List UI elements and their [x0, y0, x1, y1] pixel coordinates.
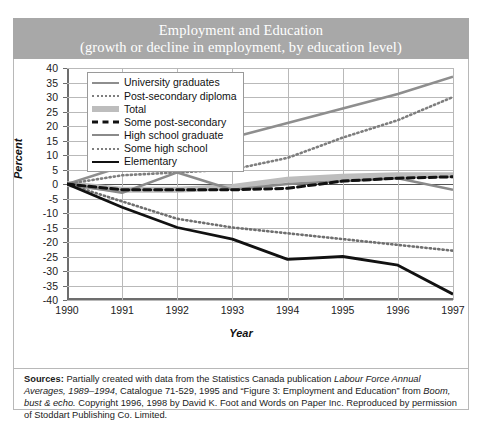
x-tick-label-1994: 1994: [268, 305, 308, 316]
chart-title-line2: (growth or decline in employment, by edu…: [80, 39, 402, 55]
x-tick-label-1992: 1992: [157, 305, 197, 316]
series-line-elementary: [67, 184, 453, 294]
chart-area: 4035302520151050-5-10-15-20-25-30-35-40 …: [13, 59, 469, 369]
y-tick-label--15: -15: [32, 223, 58, 234]
legend-item-total[interactable]: Total: [92, 102, 237, 115]
y-tick-label-30: 30: [32, 92, 58, 103]
x-tick-label-1996: 1996: [378, 305, 418, 316]
y-tick-label--10: -10: [32, 208, 58, 219]
legend-item-label: University graduates: [124, 77, 220, 88]
legend-item-post-secondary-diploma[interactable]: Post-secondary diploma: [92, 89, 237, 102]
legend-swatch-icon: [92, 77, 119, 88]
legend-item-university-graduates[interactable]: University graduates: [92, 76, 237, 89]
legend-swatch-icon: [92, 143, 119, 154]
legend-item-some-post-secondary[interactable]: Some post-secondary: [92, 116, 237, 129]
y-tick-label--5: -5: [32, 194, 58, 205]
legend-swatch-icon: [92, 103, 119, 114]
y-tick-label-5: 5: [32, 165, 58, 176]
chart-title-banner: Employment and Education (growth or decl…: [13, 18, 469, 59]
legend-swatch-icon: [92, 130, 119, 141]
figure-container: Employment and Education (growth or decl…: [13, 18, 469, 410]
legend-item-label: Post-secondary diploma: [124, 91, 237, 102]
x-tick-label-1993: 1993: [212, 305, 252, 316]
y-tick-label-15: 15: [32, 136, 58, 147]
series-line-some-high-school: [67, 184, 453, 251]
y-tick-label-40: 40: [32, 63, 58, 74]
y-tick-label--20: -20: [32, 237, 58, 248]
y-tick-label--40: -40: [32, 295, 58, 306]
y-tick-label-25: 25: [32, 107, 58, 118]
legend-item-some-high-school[interactable]: Some high school: [92, 142, 237, 155]
legend-item-label: Some post-secondary: [124, 117, 226, 128]
x-tick-label-1997: 1997: [433, 305, 469, 316]
y-tick--40: [63, 300, 67, 301]
legend-item-label: Elementary: [124, 156, 177, 167]
legend-item-label: Some high school: [124, 143, 207, 154]
source-label: Sources:: [24, 374, 64, 384]
y-tick-label-20: 20: [32, 121, 58, 132]
y-tick-label--35: -35: [32, 281, 58, 292]
gridline-y--40: [67, 300, 453, 301]
legend-item-elementary[interactable]: Elementary: [92, 155, 237, 168]
x-tick-label-1991: 1991: [102, 305, 142, 316]
x-tick-label-1995: 1995: [323, 305, 363, 316]
y-tick-label--30: -30: [32, 266, 58, 277]
y-tick-label-35: 35: [32, 78, 58, 89]
legend-swatch-icon: [92, 117, 119, 128]
x-tick-label-1990: 1990: [47, 305, 87, 316]
legend-item-label: High school graduate: [124, 130, 223, 141]
legend-swatch-icon: [92, 90, 119, 101]
chart-title-line1: Employment and Education: [159, 22, 323, 38]
y-tick-label-0: 0: [32, 179, 58, 190]
source-note-text: Sources: Partially created with data fro…: [24, 374, 458, 422]
y-axis-title: Percent: [13, 139, 24, 179]
y-tick-label-10: 10: [32, 150, 58, 161]
legend-item-label: Total: [124, 104, 146, 115]
chart-legend: University graduatesPost-secondary diplo…: [87, 72, 244, 172]
source-italic-publication: Labour Force Annual Averages, 1989–1994: [24, 374, 421, 396]
x-axis-title: Year: [14, 327, 468, 339]
y-tick-label--25: -25: [32, 252, 58, 263]
legend-swatch-icon: [92, 156, 119, 167]
legend-item-high-school-graduate[interactable]: High school graduate: [92, 129, 237, 142]
gridline-x-1997: [453, 68, 454, 300]
source-note-box: Sources: Partially created with data fro…: [13, 369, 469, 410]
